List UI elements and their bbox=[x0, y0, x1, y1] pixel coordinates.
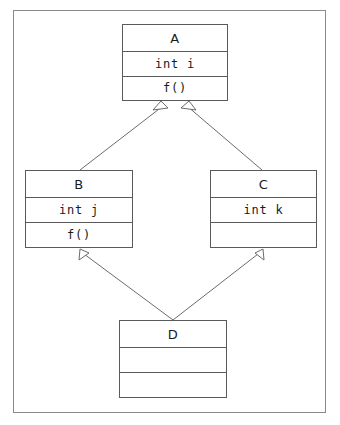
edge-c-to-a bbox=[187, 106, 262, 170]
class-d-name: D bbox=[120, 321, 226, 347]
diagram-canvas: A int i f() B int j f() C int k D bbox=[0, 0, 340, 425]
arrowhead-c-to-a bbox=[181, 101, 196, 110]
edge-d-to-b bbox=[84, 254, 173, 320]
class-a-operations: f() bbox=[123, 76, 227, 101]
uml-class-d[interactable]: D bbox=[119, 320, 227, 398]
class-c-operations bbox=[211, 222, 316, 247]
class-b-attributes: int j bbox=[26, 197, 132, 222]
edge-d-to-c bbox=[173, 254, 258, 320]
uml-class-b[interactable]: B int j f() bbox=[25, 170, 133, 248]
class-b-name: B bbox=[26, 171, 132, 197]
arrowhead-b-to-a bbox=[153, 101, 168, 110]
class-c-attributes: int k bbox=[211, 197, 316, 222]
class-a-attributes: int i bbox=[123, 51, 227, 76]
uml-class-c[interactable]: C int k bbox=[210, 170, 317, 248]
arrowhead-d-to-c bbox=[255, 249, 264, 260]
class-d-operations bbox=[120, 372, 226, 397]
edge-b-to-a bbox=[80, 106, 163, 170]
class-d-attributes bbox=[120, 347, 226, 372]
class-c-name: C bbox=[211, 171, 316, 197]
class-a-name: A bbox=[123, 25, 227, 51]
class-b-operations: f() bbox=[26, 222, 132, 247]
arrowhead-d-to-b bbox=[79, 249, 89, 260]
uml-class-a[interactable]: A int i f() bbox=[122, 24, 228, 101]
